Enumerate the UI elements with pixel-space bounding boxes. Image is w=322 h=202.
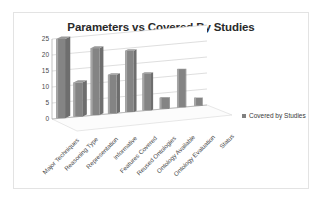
y-axis-tick-label: 10	[42, 84, 49, 91]
x-axis-tick-label: Status	[231, 121, 248, 138]
y-axis-tick-label: 15	[42, 68, 49, 75]
y-axis-tick-label: 20	[42, 52, 49, 59]
chart-legend: Covered by Studies	[242, 112, 306, 119]
chart-container: Parameters vs Covered By Studies 0510152…	[13, 12, 309, 189]
legend-item-label: Covered by Studies	[249, 112, 306, 119]
y-axis-tick-label: 5	[45, 100, 49, 107]
square-marker-icon	[242, 114, 246, 118]
x-axis-ticks: Major TechniquesReasoning TypeRepresenta…	[52, 131, 252, 191]
y-axis-tick-label: 0	[45, 116, 49, 123]
y-axis-tick-label: 25	[42, 36, 49, 43]
